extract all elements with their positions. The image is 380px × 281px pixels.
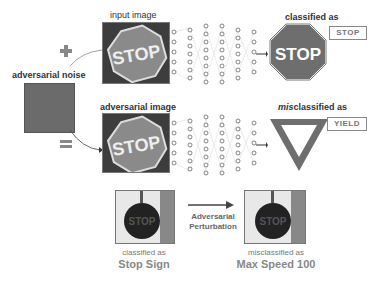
example-stop-sign-image: STOP — [115, 190, 175, 244]
example-right-caption: misclassified as — [238, 248, 314, 257]
example-left-caption: classified as — [112, 248, 176, 257]
svg-text:STOP: STOP — [128, 216, 155, 227]
adversarial-image-label: adversarial image — [100, 102, 176, 112]
neural-network-bottom — [168, 113, 268, 177]
prediction-badge-stop: STOP — [329, 26, 367, 40]
adversarial-image: STOP — [102, 113, 170, 173]
adversarial-noise-label: adversarial noise — [12, 70, 86, 80]
adversarial-noise-image — [24, 83, 75, 133]
connector-bottom — [68, 128, 104, 156]
input-image-label: input image — [110, 10, 157, 20]
connector-top — [68, 48, 104, 68]
yield-sign-output — [268, 117, 330, 173]
prediction-badge-yield: YIELD — [327, 117, 367, 131]
arrow-line2: Perturbation — [178, 222, 248, 232]
classified-as-label: classified as — [285, 12, 339, 22]
example-left-class: Stop Sign — [104, 258, 184, 270]
svg-text:STOP: STOP — [259, 216, 286, 227]
misclassified-rest: classified as — [294, 102, 348, 112]
input-image: STOP — [102, 22, 170, 84]
mis-prefix: mis — [278, 102, 294, 112]
example-right-class: Max Speed 100 — [228, 258, 324, 270]
neural-network-top — [168, 22, 268, 86]
adversarial-perturbation-label: Adversarial Perturbation — [178, 212, 248, 232]
arrow-line1: Adversarial — [178, 212, 248, 222]
misclassified-as-label: misclassified as — [278, 102, 347, 112]
svg-text:STOP: STOP — [275, 45, 321, 64]
stop-sign-output: STOP — [268, 22, 328, 82]
perturbation-arrow — [188, 200, 236, 210]
example-perturbed-image: STOP — [244, 190, 306, 244]
